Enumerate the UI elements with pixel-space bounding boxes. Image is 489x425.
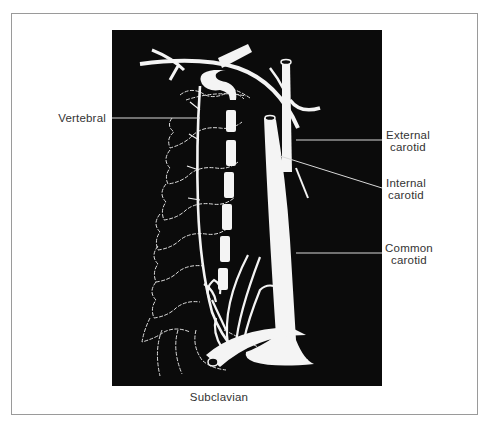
label-subclavian: Subclavian [184,391,254,403]
external-carotid-artery [282,62,292,172]
label-common-carotid: Common carotid [383,242,435,266]
leader-lines [112,118,382,253]
label-line: Common [383,242,435,254]
label-line: Internal [383,177,429,189]
label-line: carotid [383,254,435,266]
internal-carotid-leader [280,156,382,188]
label-line: carotid [383,189,429,201]
label-line: External [384,129,432,141]
label-vertebral: Vertebral [58,112,106,124]
label-external-carotid: External carotid [384,129,432,153]
spinal-segments [218,110,236,290]
label-internal-carotid: Internal carotid [383,177,429,201]
label-line: carotid [384,141,432,153]
artery-illustration [0,0,489,425]
